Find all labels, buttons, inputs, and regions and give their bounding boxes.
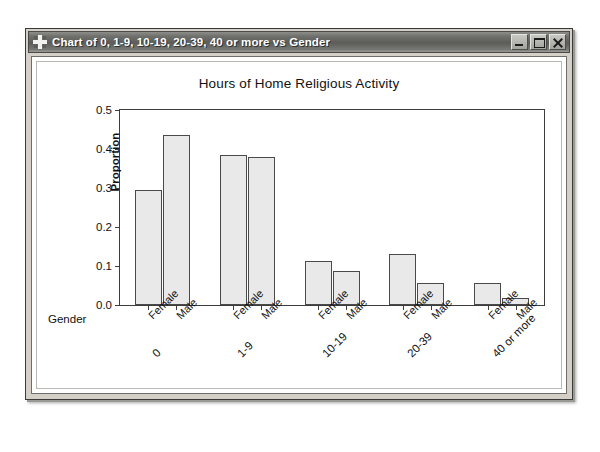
x-axis-group-label: 1-9 [235,339,255,359]
x-axis-title: Gender [48,313,86,325]
maximize-button[interactable] [530,34,547,50]
window-client-area: Hours of Home Religious Activity Proport… [31,56,567,394]
window-title-bar[interactable]: Chart of 0, 1-9, 10-19, 20-39, 40 or mor… [28,31,570,53]
y-axis-tick-label: 0.2 [96,221,112,233]
y-axis-tick-label: 0.1 [96,260,112,272]
x-axis-group-label: 0 [150,346,163,359]
x-axis-group-label: 10-19 [320,330,349,359]
y-axis-tick [115,305,120,306]
bar[interactable] [163,135,190,305]
graph-frame[interactable]: Hours of Home Religious Activity Proport… [36,61,562,389]
minimize-button[interactable] [511,34,528,50]
bar[interactable] [248,157,275,305]
minitab-crosshair-icon [33,35,47,49]
close-button[interactable] [549,34,566,50]
chart-title: Hours of Home Religious Activity [37,76,561,91]
window-controls [511,34,566,50]
chart-window[interactable]: Chart of 0, 1-9, 10-19, 20-39, 40 or mor… [25,28,573,400]
y-axis-tick [115,266,120,267]
x-axis-group-label: 20-39 [405,330,434,359]
y-axis-tick-label: 0.3 [96,182,112,194]
bar[interactable] [389,254,416,305]
y-axis-tick [115,188,120,189]
y-axis-tick [115,110,120,111]
y-axis-tick [115,227,120,228]
y-axis-tick [115,149,120,150]
y-axis-title: Proportion [109,107,121,217]
bar[interactable] [135,190,162,305]
y-axis-tick-label: 0.5 [96,104,112,116]
window-title: Chart of 0, 1-9, 10-19, 20-39, 40 or mor… [52,36,511,48]
bar[interactable] [220,155,247,305]
y-axis-tick-label: 0.4 [96,143,112,155]
y-axis-tick-label: 0.0 [96,299,112,311]
plot-area: Proportion 0.50.40.30.20.10.0 FemaleMale… [119,109,545,306]
bar[interactable] [305,261,332,305]
